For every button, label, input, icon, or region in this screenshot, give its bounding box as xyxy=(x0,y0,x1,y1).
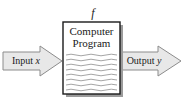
function-label: f xyxy=(0,7,186,19)
computer-program-function-diagram: f Computer Program Input x Output y xyxy=(0,0,186,105)
output-arrow-label-variable: y xyxy=(157,55,161,66)
program-box-label-line-2: Program xyxy=(63,38,120,49)
input-arrow-label-text: Input xyxy=(12,55,33,66)
output-arrow-label: Output y xyxy=(121,56,167,66)
output-arrow-label-text: Output xyxy=(127,55,155,66)
caption-fragment xyxy=(3,99,69,103)
input-arrow-label: Input x xyxy=(4,56,48,66)
input-arrow-label-variable: x xyxy=(36,55,40,66)
program-box-label-line-1: Computer xyxy=(63,26,120,37)
